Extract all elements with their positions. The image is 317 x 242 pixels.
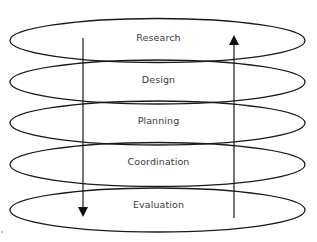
layer-label-planning: Planning bbox=[0, 115, 317, 127]
layer-label-research: Research bbox=[0, 32, 317, 44]
layer-label-coordination: Coordination bbox=[0, 156, 317, 168]
layer-label-evaluation: Evaluation bbox=[0, 199, 317, 211]
layered-process-diagram: Research Design Planning Coordination Ev… bbox=[0, 0, 317, 242]
layer-label-design: Design bbox=[0, 74, 317, 86]
